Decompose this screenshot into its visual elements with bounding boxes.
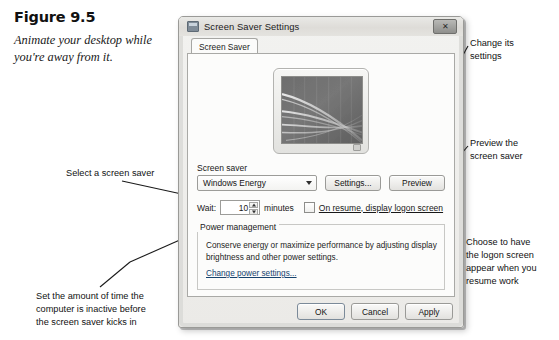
screen-saver-settings-dialog: Screen Saver Settings ✕ Screen Saver	[178, 16, 464, 328]
screen-saver-preview	[281, 76, 363, 144]
stepper-up-icon[interactable]	[249, 202, 258, 208]
screen-saver-label: Screen saver	[197, 163, 247, 173]
monitor-power-led	[353, 144, 361, 151]
screen-saver-dropdown[interactable]: Windows Energy	[197, 175, 317, 191]
change-power-settings-link[interactable]: Change power settings...	[206, 269, 297, 278]
wait-unit-label: minutes	[264, 203, 294, 213]
tab-strip: Screen Saver	[187, 38, 455, 53]
annotation-set-wait-time: Set the amount of time the computer is i…	[36, 290, 196, 329]
annotation-change-settings: Change its settings	[470, 37, 556, 63]
power-management-title: Power management	[197, 222, 279, 232]
stepper-arrows[interactable]	[249, 202, 258, 215]
wait-row: Wait: 10 minutes On resume, display logo…	[197, 200, 448, 215]
preview-button[interactable]: Preview	[389, 175, 445, 191]
monitor-icon	[187, 21, 199, 32]
cancel-button[interactable]: Cancel	[351, 303, 399, 320]
dialog-titlebar[interactable]: Screen Saver Settings ✕	[179, 17, 463, 36]
dialog-title: Screen Saver Settings	[204, 21, 433, 32]
preview-monitor	[273, 68, 369, 154]
power-management-description: Conserve energy or maximize performance …	[206, 240, 438, 264]
annotation-preview-screen-saver: Preview the screen saver	[470, 137, 556, 163]
close-icon[interactable]: ✕	[433, 19, 457, 34]
figure-number: Figure 9.5	[14, 10, 174, 25]
screen-saver-row: Windows Energy Settings... Preview	[197, 175, 445, 191]
on-resume-logon-checkbox[interactable]	[304, 202, 315, 213]
figure-caption: Animate your desktop while you're away f…	[14, 32, 174, 65]
stepper-down-icon[interactable]	[249, 209, 258, 215]
dialog-footer: OK Cancel Apply	[297, 303, 453, 320]
tab-screen-saver[interactable]: Screen Saver	[191, 38, 258, 54]
on-resume-logon-label[interactable]: On resume, display logon screen	[319, 203, 443, 213]
tab-panel-screen-saver: Screen saver Windows Energy Settings... …	[187, 53, 455, 297]
preview-monitor-wrap	[188, 68, 454, 154]
chevron-down-icon	[306, 181, 312, 185]
figure-block: Figure 9.5 Animate your desktop while yo…	[14, 10, 174, 65]
wait-label: Wait:	[197, 203, 216, 213]
annotation-select-screen-saver: Select a screen saver	[66, 167, 191, 180]
windows-energy-ribbons	[282, 77, 362, 143]
apply-button[interactable]: Apply	[405, 303, 453, 320]
wait-minutes-value: 10	[239, 203, 248, 213]
annotation-logon-screen: Choose to have the logon screen appear w…	[466, 236, 558, 288]
wait-minutes-stepper[interactable]: 10	[220, 200, 260, 215]
settings-button[interactable]: Settings...	[325, 175, 381, 191]
screen-saver-selected-value: Windows Energy	[203, 178, 266, 188]
ok-button[interactable]: OK	[297, 303, 345, 320]
